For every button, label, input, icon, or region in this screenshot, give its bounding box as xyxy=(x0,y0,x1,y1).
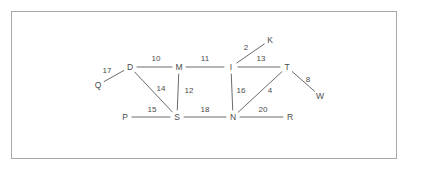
graph-edge-weight-m-i: 11 xyxy=(201,55,209,63)
graph-node-m: M xyxy=(175,63,182,72)
graph-edge-weight-d-s: 14 xyxy=(157,85,166,93)
graph-edge-weight-q-d: 17 xyxy=(103,67,112,75)
graph-node-n: N xyxy=(230,113,236,122)
graph-node-w: W xyxy=(316,92,324,101)
graph-edge-weight-n-t: 4 xyxy=(268,87,272,95)
graph-node-t: T xyxy=(284,63,289,72)
graph-node-q: Q xyxy=(95,81,102,90)
graph-edge-weight-i-k: 2 xyxy=(244,44,248,52)
graph-edge-weight-n-r: 20 xyxy=(259,106,268,114)
diagram-page: QDMITKWPSNR 17101121381412164151820 xyxy=(0,0,421,174)
graph-edge-weight-i-t: 13 xyxy=(257,55,266,63)
graph-canvas xyxy=(0,0,421,174)
graph-node-r: R xyxy=(287,113,293,122)
graph-node-i: I xyxy=(230,63,232,72)
graph-node-k: K xyxy=(267,36,273,45)
graph-edge-weight-p-s: 15 xyxy=(148,106,157,114)
graph-edge-weight-m-s: 12 xyxy=(185,87,194,95)
graph-edge-weight-t-w: 8 xyxy=(306,76,310,84)
graph-node-p: P xyxy=(122,113,128,122)
graph-edge-m-s xyxy=(177,74,178,110)
graph-edge-t-w xyxy=(292,72,314,92)
graph-node-s: S xyxy=(174,113,180,122)
graph-edge-weight-d-m: 10 xyxy=(152,55,161,63)
graph-edge-weight-s-n: 18 xyxy=(201,106,210,114)
graph-edge-i-n xyxy=(231,74,232,110)
graph-edge-weight-i-n: 16 xyxy=(237,87,246,95)
graph-node-d: D xyxy=(127,63,133,72)
